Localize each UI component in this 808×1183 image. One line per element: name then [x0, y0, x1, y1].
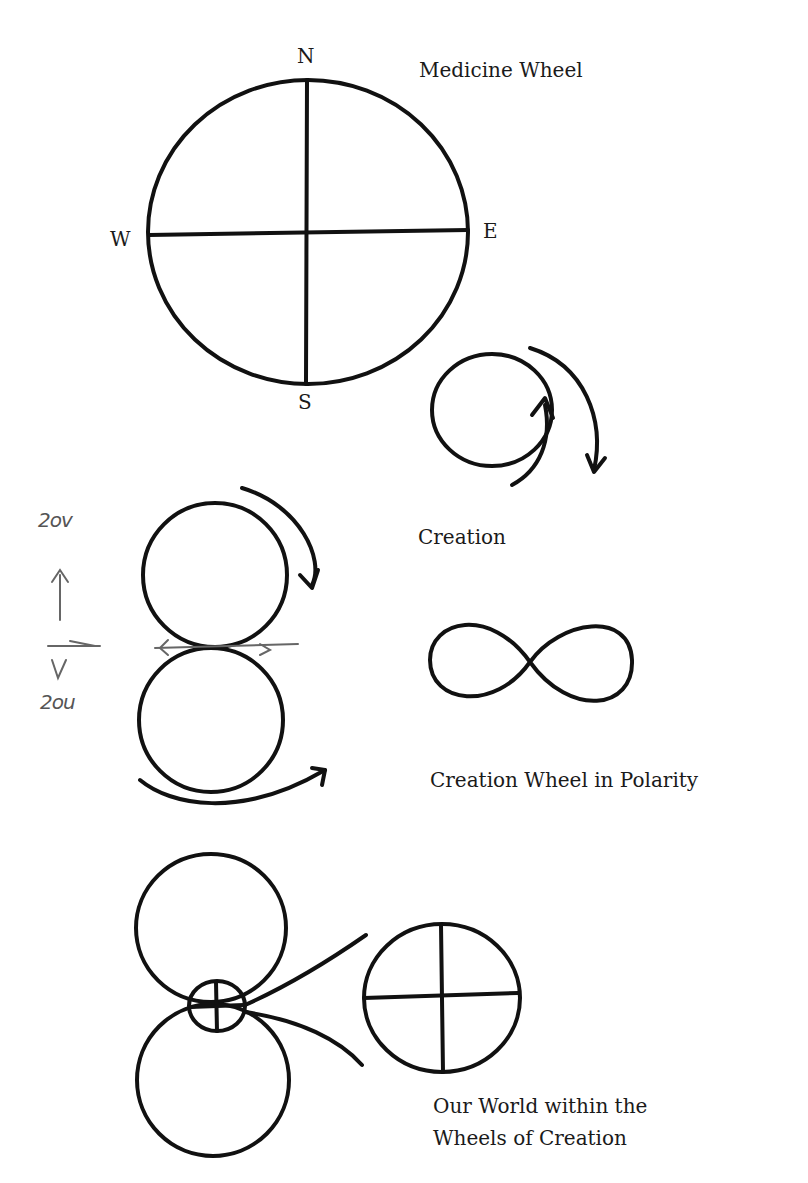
creation-wheel-diagram: [432, 348, 605, 485]
polarity-caption: Creation Wheel in Polarity: [430, 766, 698, 795]
our-world-caption-line1: Our World within the: [433, 1092, 647, 1121]
direction-south-label: S: [298, 388, 312, 417]
direction-north-label: N: [297, 42, 315, 71]
medicine-wheel-diagram: [148, 80, 468, 384]
polarity-annotation-top: 2ov: [38, 508, 72, 532]
creation-caption: Creation: [418, 523, 506, 552]
infinity-diagram: [430, 625, 632, 701]
polarity-annotation-bottom: 2ou: [40, 690, 75, 714]
our-world-caption-line2: Wheels of Creation: [433, 1124, 627, 1153]
direction-west-label: W: [110, 225, 131, 254]
diagram-canvas: [0, 0, 808, 1183]
direction-east-label: E: [483, 217, 498, 246]
medicine-wheel-title: Medicine Wheel: [419, 56, 583, 85]
polarity-wheels-diagram: [48, 488, 325, 803]
